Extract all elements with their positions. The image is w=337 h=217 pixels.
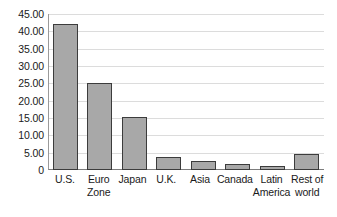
x-axis-tick: Rest ofworld <box>290 173 324 198</box>
bar-slot <box>255 14 290 170</box>
x-axis-tick: Japan <box>116 173 150 198</box>
bar-u-s[interactable] <box>53 24 78 170</box>
bar-slot <box>117 14 152 170</box>
bar-series <box>48 14 324 170</box>
x-axis-tick-label-line2: America <box>253 186 290 199</box>
x-axis-tick-label: Latin <box>253 173 290 186</box>
bar-slot <box>290 14 325 170</box>
bar-japan[interactable] <box>122 117 147 170</box>
x-axis-tick-label: Rest of <box>290 173 324 186</box>
y-axis-tick-label: 20.00 <box>0 96 44 107</box>
bar-slot <box>83 14 118 170</box>
x-axis-tick-label: Japan <box>116 173 150 186</box>
bar-asia[interactable] <box>191 161 216 170</box>
y-axis-tick-label: 15.00 <box>0 113 44 124</box>
x-axis-tick-label: Asia <box>183 173 217 186</box>
x-axis-tick: U.K. <box>149 173 183 198</box>
y-axis-tick-label: 35.00 <box>0 44 44 55</box>
bar-u-k[interactable] <box>156 157 181 170</box>
bar-euro-zone[interactable] <box>87 83 112 170</box>
y-axis: 45.0040.0035.0030.0025.0020.0015.0010.00… <box>0 14 44 170</box>
y-axis-tick-label: 10.00 <box>0 130 44 141</box>
bar-slot <box>152 14 187 170</box>
y-axis-tick-label: 45.00 <box>0 9 44 20</box>
y-axis-tick-label: 25.00 <box>0 78 44 89</box>
x-axis-tick-label: Canada <box>217 173 253 186</box>
y-axis-tick-label: 30.00 <box>0 61 44 72</box>
gridline <box>49 170 324 171</box>
bar-slot <box>48 14 83 170</box>
x-axis-tick-label-line2: world <box>290 186 324 199</box>
x-axis-tick-label-line2: Zone <box>82 186 116 199</box>
bar-canada[interactable] <box>225 164 250 170</box>
bar-latin-america[interactable] <box>260 166 285 170</box>
x-axis-tick-label: Euro <box>82 173 116 186</box>
x-axis-tick: U.S. <box>48 173 82 198</box>
bar-slot <box>221 14 256 170</box>
y-axis-tick-label: 40.00 <box>0 26 44 37</box>
y-axis-tick-label: 0 <box>0 165 44 176</box>
x-axis-tick-label: U.S. <box>48 173 82 186</box>
bar-rest-of-world[interactable] <box>294 154 319 170</box>
x-axis-tick: EuroZone <box>82 173 116 198</box>
y-axis-tick-label: 5.00 <box>0 148 44 159</box>
x-axis-tick-label: U.K. <box>149 173 183 186</box>
x-axis-tick: Canada <box>217 173 253 198</box>
bar-slot <box>186 14 221 170</box>
x-axis-tick: Asia <box>183 173 217 198</box>
bar-chart: 45.0040.0035.0030.0025.0020.0015.0010.00… <box>0 0 337 217</box>
x-axis-tick: LatinAmerica <box>253 173 290 198</box>
x-axis: U.S.EuroZoneJapanU.K.AsiaCanadaLatinAmer… <box>48 173 324 198</box>
